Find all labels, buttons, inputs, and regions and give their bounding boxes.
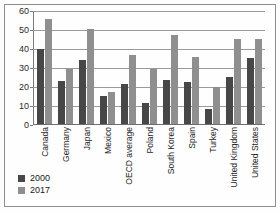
bar: [66, 69, 73, 124]
bar: [129, 55, 136, 124]
x-label-cell: Turkey: [203, 127, 224, 187]
bar: [205, 109, 212, 124]
x-label-cell: Poland: [139, 127, 160, 187]
x-label-cell: Mexico: [97, 127, 118, 187]
plot-inner: 0102030405060: [33, 11, 265, 125]
bar: [108, 92, 115, 124]
y-tick-label: 30: [19, 64, 29, 73]
bar: [58, 81, 65, 124]
bar-group: [76, 11, 97, 124]
y-tick-mark: [30, 49, 33, 50]
x-tick-label: United States: [251, 127, 260, 178]
bar: [79, 60, 86, 124]
bar: [247, 58, 254, 124]
bar: [121, 84, 128, 124]
bar: [37, 49, 44, 124]
x-tick-label: Spain: [188, 127, 197, 149]
bar-group: [139, 11, 160, 124]
legend-label: 2017: [30, 186, 50, 195]
legend-item-2017: 2017: [18, 184, 50, 196]
bar-groups: [34, 11, 265, 124]
x-axis-labels: CanadaGermanyJapanMexicoOECD averagePola…: [34, 127, 266, 187]
bar: [171, 35, 178, 124]
y-tick-label: 40: [19, 44, 29, 53]
bar-group: [160, 11, 181, 124]
x-tick-label: Mexico: [104, 127, 113, 154]
plot-area: 0102030405060: [33, 11, 265, 125]
x-label-cell: Japan: [76, 127, 97, 187]
bar: [226, 77, 233, 124]
y-tick-mark: [30, 68, 33, 69]
y-tick-label: 0: [24, 121, 29, 130]
y-tick-label: 60: [19, 7, 29, 16]
y-tick-label: 50: [19, 25, 29, 34]
x-tick-label: Canada: [40, 127, 49, 157]
x-tick-label: United Kingdom: [230, 127, 239, 187]
x-tick-label: Poland: [146, 127, 155, 153]
x-label-cell: Germany: [55, 127, 76, 187]
x-label-cell: OECD average: [118, 127, 139, 187]
x-axis-line: [33, 124, 265, 125]
y-tick-label: 10: [19, 102, 29, 111]
y-tick-mark: [30, 11, 33, 12]
y-tick-mark: [30, 30, 33, 31]
bar-group: [118, 11, 139, 124]
bar: [142, 103, 149, 124]
bar: [192, 57, 199, 124]
bar-group: [244, 11, 265, 124]
x-tick-label: South Korea: [167, 127, 176, 174]
x-tick-label: OECD average: [125, 127, 134, 185]
x-tick-label: Germany: [61, 127, 70, 162]
x-tick-label: Japan: [82, 127, 91, 150]
bar: [150, 69, 157, 124]
bar: [184, 82, 191, 124]
x-label-cell: United Kingdom: [224, 127, 245, 187]
bar-group: [97, 11, 118, 124]
bar: [234, 39, 241, 124]
y-tick-label: 20: [19, 82, 29, 91]
legend-label: 2000: [30, 174, 50, 183]
bar: [255, 39, 262, 124]
bar-group: [55, 11, 76, 124]
y-tick-mark: [30, 125, 33, 126]
x-label-cell: South Korea: [161, 127, 182, 187]
bar-group: [181, 11, 202, 124]
bar-group: [34, 11, 55, 124]
bar: [100, 96, 107, 124]
x-label-cell: Spain: [182, 127, 203, 187]
chart-legend: 2000 2017: [18, 172, 50, 196]
x-tick-label: Turkey: [209, 127, 218, 153]
legend-item-2000: 2000: [18, 172, 50, 184]
y-tick-mark: [30, 87, 33, 88]
bar: [163, 80, 170, 124]
bar: [213, 87, 220, 124]
legend-swatch-icon: [18, 175, 25, 182]
x-label-cell: United States: [245, 127, 266, 187]
bar-group: [202, 11, 223, 124]
bar-group: [223, 11, 244, 124]
chart-figure: 0102030405060 CanadaGermanyJapanMexicoOE…: [0, 0, 280, 211]
y-tick-mark: [30, 106, 33, 107]
bar: [45, 19, 52, 124]
bar: [87, 29, 94, 124]
legend-swatch-icon: [18, 187, 25, 194]
